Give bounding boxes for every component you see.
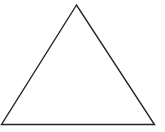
- triangle-shape: [2, 5, 155, 125]
- diagram-canvas: [0, 0, 165, 132]
